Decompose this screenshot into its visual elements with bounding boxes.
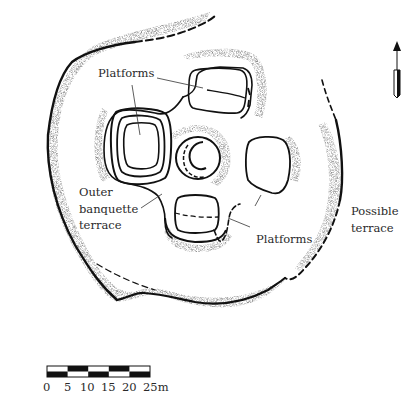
scale-tick-5: 5 — [64, 380, 71, 394]
label-leaders — [132, 78, 261, 227]
label-outer-line2: banquette — [79, 202, 138, 216]
platform-west — [111, 108, 171, 184]
north-arrow-icon — [393, 41, 401, 98]
scale-tick-0: 0 — [43, 380, 50, 394]
central-mound — [176, 137, 220, 179]
label-outer-line3: terrace — [79, 218, 122, 232]
scale-tick-15: 15 — [101, 380, 116, 394]
scale-tick-20: 20 — [122, 380, 137, 394]
label-possible-line2: terrace — [351, 221, 394, 235]
outer-slope-stipple — [47, 12, 341, 307]
label-outer-line1: Outer — [79, 185, 113, 199]
scale-tick-25m: 25m — [143, 380, 169, 394]
platform-south — [165, 195, 226, 242]
label-possible-line1: Possible — [351, 204, 399, 218]
scale-bar — [47, 366, 150, 377]
scale-tick-10: 10 — [80, 380, 95, 394]
label-platforms-bottom: Platforms — [256, 232, 312, 246]
site-plan: Platforms Outer banquette terrace Platfo… — [0, 0, 419, 408]
label-platforms-top: Platforms — [98, 66, 154, 80]
platform-east — [246, 137, 290, 194]
scale-bar-ticks: 0 5 10 15 20 25m — [43, 380, 169, 394]
